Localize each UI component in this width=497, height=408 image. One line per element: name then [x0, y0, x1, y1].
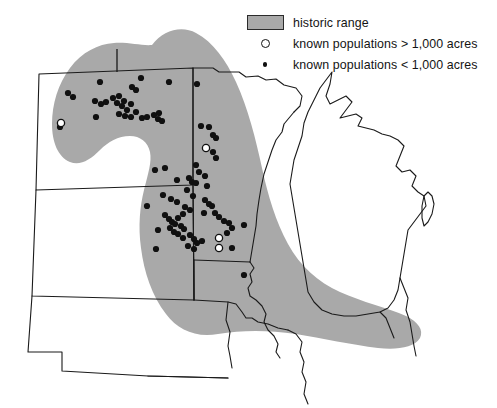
population-point-small [213, 155, 219, 161]
population-point-small [241, 272, 247, 278]
population-point-small [193, 180, 199, 186]
population-point-small [110, 95, 116, 101]
population-point-small [174, 177, 180, 183]
population-point-small [194, 81, 200, 87]
population-point-small [180, 235, 186, 241]
population-point-small [209, 203, 215, 209]
population-point-small [190, 193, 196, 199]
population-point-small [121, 98, 127, 104]
population-point-small [70, 94, 76, 100]
population-point-small [181, 226, 187, 232]
population-point-small [97, 79, 103, 85]
gray-swatch-icon [247, 15, 284, 30]
legend-label-small-populations: known populations < 1,000 acres [287, 58, 478, 72]
population-point-small [193, 162, 199, 168]
population-point-small [128, 114, 134, 120]
population-point-large [202, 144, 209, 151]
historic-range-swatch [243, 15, 287, 30]
population-point-small [103, 99, 109, 105]
population-point-small [156, 110, 162, 116]
population-point-small [175, 231, 181, 237]
population-point-small [216, 214, 222, 220]
population-point-small [229, 225, 235, 231]
legend: historic range known populations > 1,000… [243, 12, 493, 75]
population-point-small [199, 238, 205, 244]
population-point-small [180, 211, 186, 217]
population-point-small [191, 246, 197, 252]
population-point-small [174, 199, 180, 205]
large-population-symbol [243, 39, 287, 48]
population-point-small [153, 246, 159, 252]
population-point-small [144, 203, 150, 209]
population-point-large [57, 119, 64, 126]
population-point-small [202, 173, 208, 179]
population-point-small [93, 114, 99, 120]
legend-label-historic-range: historic range [287, 16, 369, 30]
historic-range-region [52, 29, 421, 348]
population-point-small [133, 109, 139, 115]
population-point-small [184, 187, 190, 193]
legend-label-large-populations: known populations > 1,000 acres [287, 37, 478, 51]
population-point-small [92, 98, 98, 104]
population-point-small [155, 227, 161, 233]
population-point-small [210, 149, 216, 155]
population-point-small [159, 118, 165, 124]
population-point-large [215, 244, 222, 251]
population-point-small [206, 124, 212, 130]
population-point-small [187, 207, 193, 213]
open-circle-icon [261, 39, 270, 48]
population-point-small [144, 114, 150, 120]
population-point-small [201, 210, 207, 216]
legend-item-large-populations: known populations > 1,000 acres [243, 33, 493, 54]
population-point-small [172, 221, 178, 227]
population-point-small [166, 79, 172, 85]
legend-item-historic-range: historic range [243, 12, 493, 33]
population-point-small [213, 135, 219, 141]
filled-dot-icon [263, 62, 268, 67]
population-point-small [204, 183, 210, 189]
population-point-small [128, 101, 134, 107]
population-point-small [116, 111, 122, 117]
population-point-small [229, 245, 235, 251]
population-point-small [152, 167, 158, 173]
population-point-small [175, 215, 181, 221]
population-point-small [160, 192, 166, 198]
legend-item-small-populations: known populations < 1,000 acres [243, 54, 493, 75]
population-point-small [162, 165, 168, 171]
population-point-small [224, 230, 230, 236]
small-population-symbol [243, 62, 287, 67]
population-point-small [198, 123, 204, 129]
population-point-small [196, 169, 202, 175]
population-point-large [215, 234, 222, 241]
population-point-small [122, 113, 128, 119]
population-point-small [133, 87, 139, 93]
population-point-small [168, 196, 174, 202]
population-point-small [185, 243, 191, 249]
figure-container: historic range known populations > 1,000… [0, 0, 497, 408]
population-point-small [116, 93, 122, 99]
population-point-small [124, 107, 130, 113]
population-point-small [65, 90, 71, 96]
population-point-small [138, 75, 144, 81]
population-point-small [241, 222, 247, 228]
